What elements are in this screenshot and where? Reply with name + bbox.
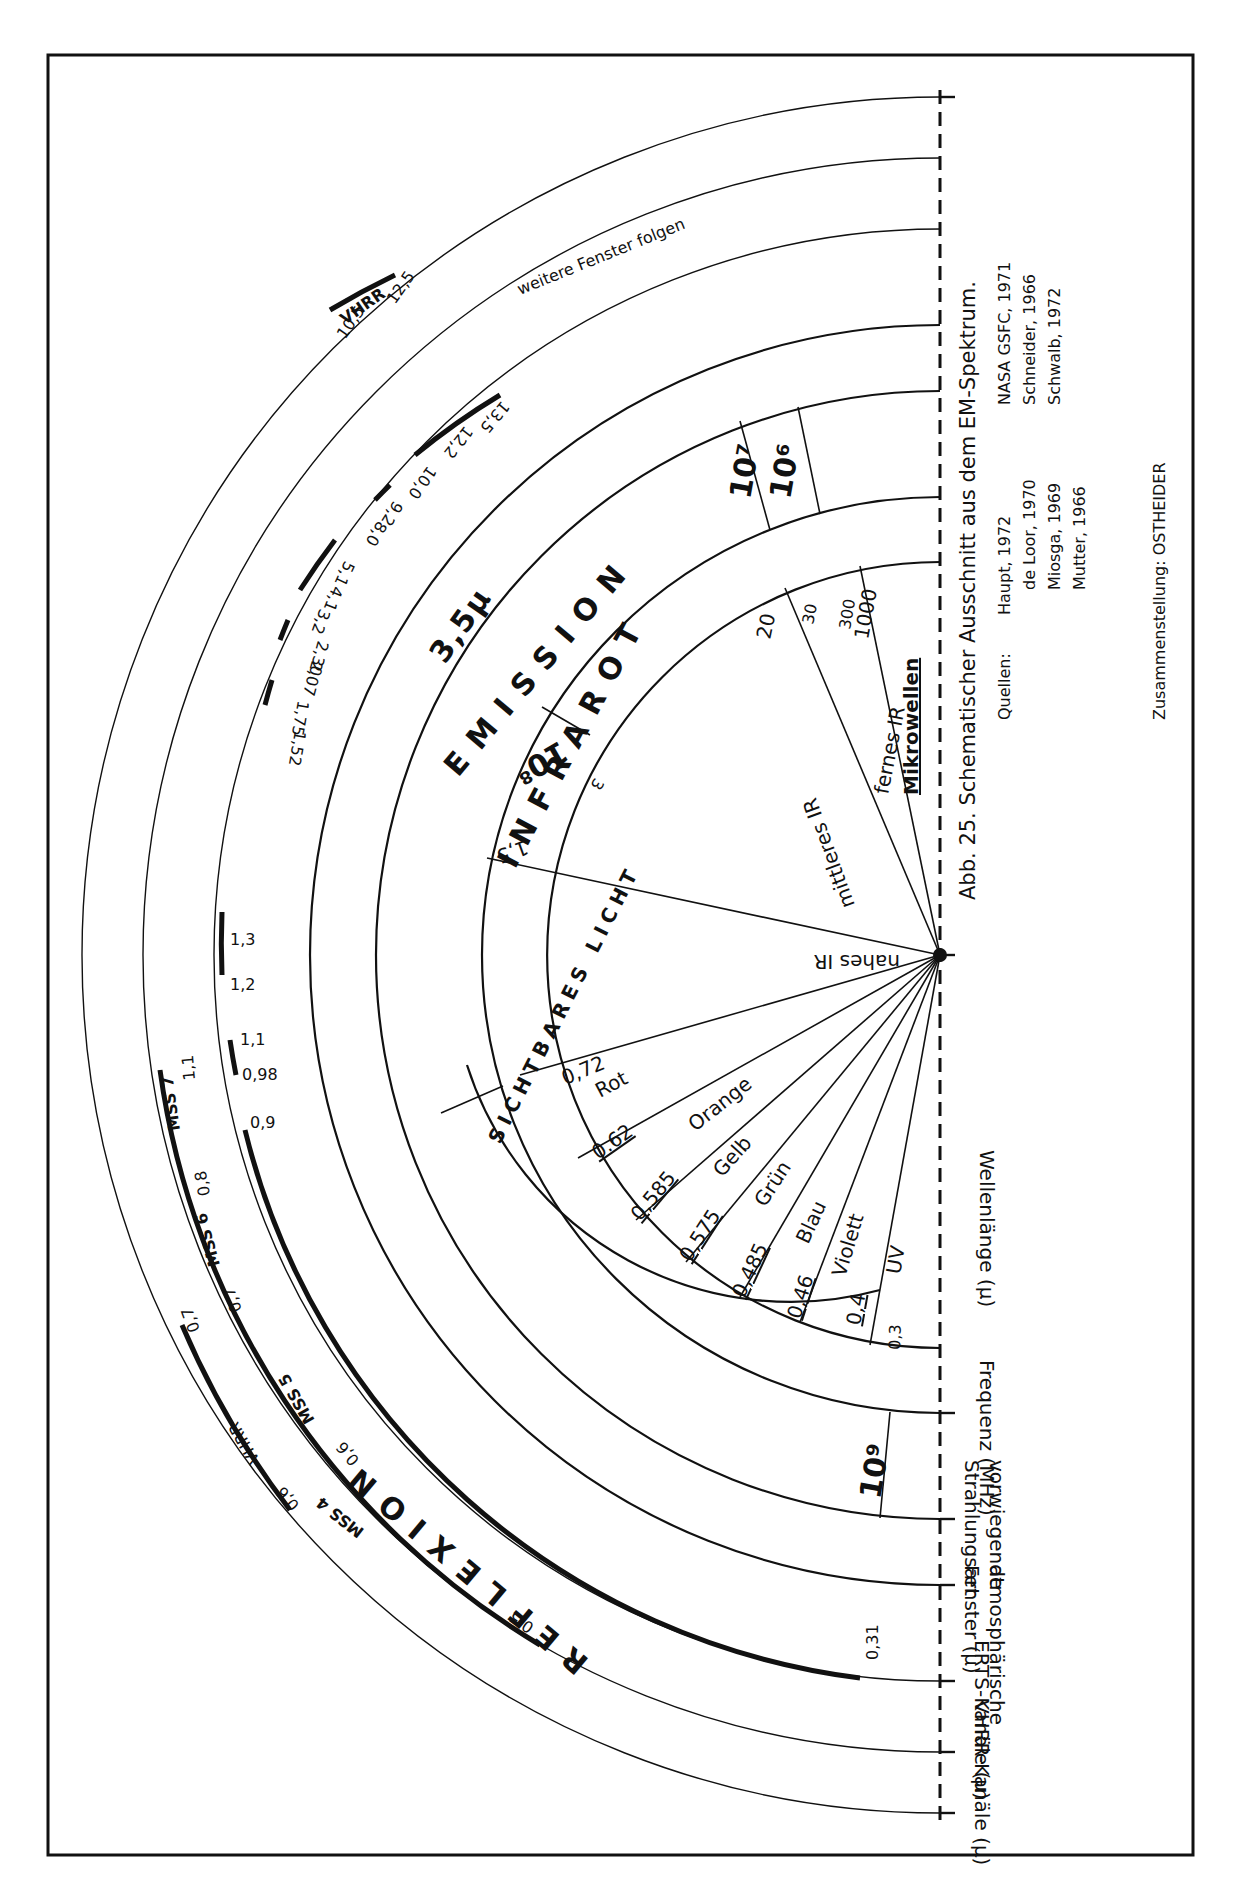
diagram-label: 0,7 — [177, 1305, 204, 1335]
sources-label: Quellen: — [995, 653, 1014, 720]
center-hub — [933, 948, 947, 962]
figure-caption: Abb. 25. Schematischer Ausschnitt aus de… — [956, 281, 980, 900]
diagram-label: 2,30 — [305, 639, 333, 678]
diagram-label: 10,0 — [404, 463, 440, 503]
diagram-label: 20 — [751, 611, 780, 641]
diagram-label: VHRR — [224, 1419, 263, 1468]
vhrr-channel-bands — [182, 275, 395, 1510]
diagram-label: 0,31 — [863, 1624, 882, 1660]
diagram-label: 0,9 — [250, 1113, 275, 1132]
mittleres-ir-label: mittleres IR — [798, 795, 860, 912]
diagram-label: 30 — [798, 602, 821, 626]
diagram-label: 12,5 — [383, 267, 419, 307]
axis-vhrr: VHRR-Kanäle (µ) — [970, 1700, 994, 1865]
caption-block: Abb. 25. Schematischer Ausschnitt aus de… — [956, 262, 1169, 900]
diagram-label: 10⁹ — [852, 1441, 896, 1501]
diagram-label: Grün — [749, 1156, 796, 1210]
diagram-label: Mutter, 1966 — [1070, 486, 1089, 590]
erts-channel-bands — [160, 1070, 540, 1645]
axis-wavelength: Wellenlänge (µ) — [975, 1150, 999, 1307]
em-spectrum-diagram: INFRAROT EMISSION REFLEXION SICHTBARES L… — [0, 0, 1241, 1900]
boundary-3-5-label: 3,5µ — [422, 581, 498, 669]
diagram-label: 10⁶ — [762, 441, 806, 501]
region-sichtbares-licht: SICHTBARES LICHT — [483, 861, 645, 1147]
nahes-ir-label: nahes IR — [813, 950, 900, 974]
erts-channel-labels: MSS 4 0,5 MSS 5 0,6 MSS 6 0,7 MSS 7 0,8 … — [157, 1054, 537, 1637]
diagram-label: 0,575 — [674, 1205, 725, 1266]
diagram-label: 0,46 — [782, 1272, 819, 1322]
diagram-label: Haupt, 1972 — [995, 516, 1014, 615]
diagram-label: 13,5 — [476, 397, 513, 437]
vhrr-channel-labels: VHRR 0,6 0,7 VHRR 10,5 12,5 — [177, 267, 419, 1514]
diagram-label: Miosga, 1969 — [1045, 483, 1064, 590]
further-windows-label: weitere Fenster folgen — [514, 214, 687, 299]
diagram-label: Orange — [683, 1072, 756, 1136]
diagram-label: 1,1 — [178, 1054, 199, 1081]
diagram-label: 0,585 — [625, 1166, 680, 1225]
axis-labels: Wellenlänge (µ) Frequenz (MHz) vorwiegen… — [960, 1150, 1009, 1865]
diagram-label: de Loor, 1970 — [1020, 479, 1039, 590]
diagram-label: 0,485 — [727, 1239, 773, 1301]
diagram-label: 1,2 — [230, 975, 255, 994]
diagram-label: 0,4 — [841, 1291, 870, 1326]
diagram-label: 0,3 — [885, 1324, 905, 1350]
diagram-label: 0,98 — [242, 1065, 278, 1084]
diagram-label: 1000 — [849, 587, 881, 641]
diagram-label: NASA GSFC, 1971 — [995, 262, 1014, 405]
diagram-label: UV — [881, 1243, 910, 1275]
diagram-label: Violett — [827, 1211, 869, 1280]
diagram-label: Gelb — [708, 1131, 757, 1181]
diagram-label: Blau — [791, 1197, 831, 1247]
rings — [82, 97, 940, 1813]
diagram-label: 0,6 — [272, 1483, 303, 1515]
diagram-label: 1,1 — [240, 1030, 265, 1049]
diagram-label: 0.62 — [587, 1119, 637, 1164]
diagram-label: 0,8 — [191, 1169, 214, 1197]
diagram-label: Schwalb, 1972 — [1045, 288, 1064, 405]
compiled-by: Zusammenstellung: OSTHEIDER — [1150, 462, 1169, 720]
diagram-label: Schneider, 1966 — [1020, 274, 1039, 405]
diagram-label: 1,3 — [230, 930, 255, 949]
